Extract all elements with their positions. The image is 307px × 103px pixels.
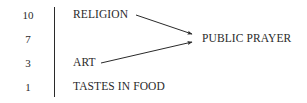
arrow-art-to-public-prayer <box>101 42 192 63</box>
arrows <box>0 0 307 103</box>
arrow-religion-to-public-prayer <box>136 15 192 34</box>
